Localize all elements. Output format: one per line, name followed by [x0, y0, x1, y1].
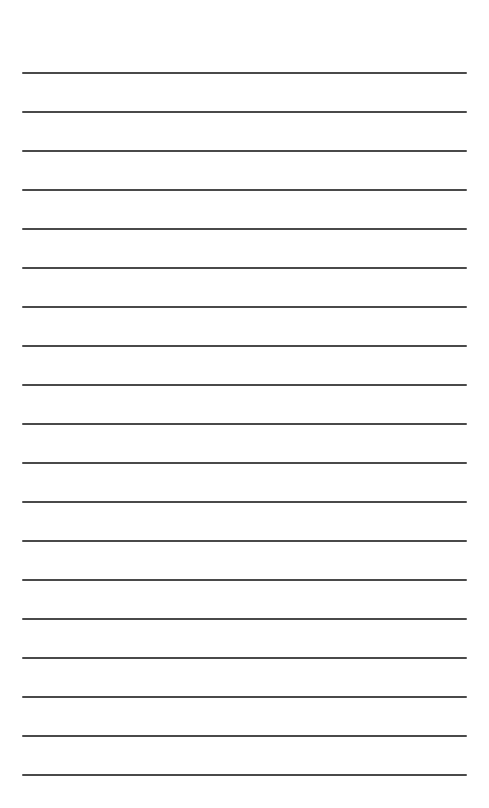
- ruled-line: [22, 345, 467, 347]
- ruled-line: [22, 657, 467, 659]
- ruled-line: [22, 579, 467, 581]
- ruled-line: [22, 306, 467, 308]
- ruled-line: [22, 384, 467, 386]
- ruled-line: [22, 618, 467, 620]
- ruled-line: [22, 267, 467, 269]
- ruled-line: [22, 150, 467, 152]
- ruled-line: [22, 735, 467, 737]
- ruled-line: [22, 696, 467, 698]
- ruled-line: [22, 501, 467, 503]
- ruled-line: [22, 111, 467, 113]
- ruled-line: [22, 462, 467, 464]
- ruled-line: [22, 540, 467, 542]
- lined-paper-page: [0, 0, 489, 808]
- ruled-line: [22, 228, 467, 230]
- ruled-line: [22, 189, 467, 191]
- ruled-line: [22, 423, 467, 425]
- ruled-line: [22, 72, 467, 74]
- ruled-line: [22, 774, 467, 776]
